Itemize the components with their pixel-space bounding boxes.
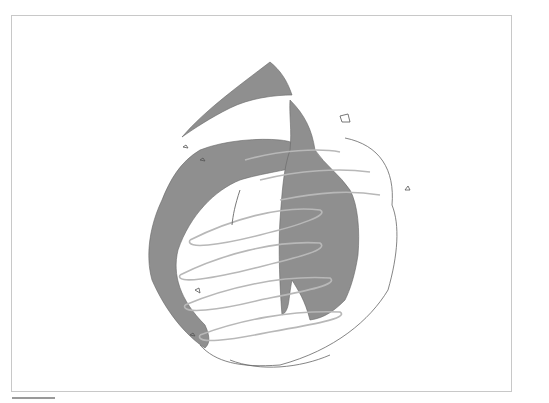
sketch-artwork [0,0,549,403]
dark-fill-top [182,62,292,137]
